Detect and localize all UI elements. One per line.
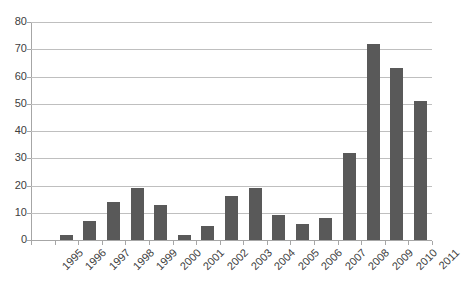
y-tick-mark-40 xyxy=(27,131,31,132)
bar-2006 xyxy=(296,224,309,240)
x-tick-label-2008: 2008 xyxy=(367,247,392,272)
x-tick-label-1999: 1999 xyxy=(154,247,179,272)
x-tick-label-2004: 2004 xyxy=(272,247,297,272)
x-tick-label-2011: 2011 xyxy=(437,247,462,272)
bar-2003 xyxy=(225,196,238,240)
bar-2007 xyxy=(319,218,332,240)
gridline-80 xyxy=(31,22,432,23)
y-tick-mark-80 xyxy=(27,22,31,23)
y-tick-label-60: 60 xyxy=(3,71,27,82)
x-tick-mark-end xyxy=(432,241,433,245)
y-tick-mark-60 xyxy=(27,77,31,78)
y-tick-label-80: 80 xyxy=(3,16,27,27)
x-tick-label-2006: 2006 xyxy=(319,247,344,272)
x-tick-label-2003: 2003 xyxy=(249,247,274,272)
y-axis-tick-labels: 01020304050607080 xyxy=(0,0,27,287)
bar-1999 xyxy=(131,188,144,240)
y-tick-mark-0 xyxy=(27,240,31,241)
x-tick-label-1997: 1997 xyxy=(107,247,132,272)
bar-2011 xyxy=(414,101,427,240)
x-tick-mark-3 xyxy=(102,241,103,245)
x-tick-mark-10 xyxy=(267,241,268,245)
x-tick-label-1995: 1995 xyxy=(60,247,85,272)
x-tick-label-1996: 1996 xyxy=(84,247,109,272)
bar-2005 xyxy=(272,215,285,240)
y-tick-label-50: 50 xyxy=(3,98,27,109)
y-tick-mark-50 xyxy=(27,104,31,105)
bar-2004 xyxy=(249,188,262,240)
x-tick-mark-7 xyxy=(196,241,197,245)
x-tick-mark-9 xyxy=(243,241,244,245)
x-tick-mark-6 xyxy=(173,241,174,245)
plot-area xyxy=(31,22,432,240)
x-tick-label-2001: 2001 xyxy=(201,247,226,272)
bar-2010 xyxy=(390,68,403,240)
bar-1996 xyxy=(60,235,73,240)
bar-2002 xyxy=(201,226,214,240)
x-tick-label-2007: 2007 xyxy=(343,247,368,272)
y-tick-mark-70 xyxy=(27,49,31,50)
bar-2008 xyxy=(343,153,356,240)
x-tick-mark-16 xyxy=(408,241,409,245)
y-tick-label-0: 0 xyxy=(3,234,27,245)
x-tick-mark-13 xyxy=(338,241,339,245)
y-tick-mark-10 xyxy=(27,213,31,214)
x-tick-label-2010: 2010 xyxy=(414,247,439,272)
y-tick-mark-20 xyxy=(27,186,31,187)
bar-2001 xyxy=(178,235,191,240)
y-tick-label-20: 20 xyxy=(3,180,27,191)
x-tick-mark-11 xyxy=(290,241,291,245)
x-tick-mark-14 xyxy=(361,241,362,245)
bar-2009 xyxy=(367,44,380,240)
bar-2000 xyxy=(154,205,167,240)
bar-1997 xyxy=(83,221,96,240)
x-tick-label-2005: 2005 xyxy=(296,247,321,272)
bar-1998 xyxy=(107,202,120,240)
y-tick-label-40: 40 xyxy=(3,125,27,136)
y-tick-label-10: 10 xyxy=(3,207,27,218)
x-tick-mark-8 xyxy=(220,241,221,245)
x-tick-label-2002: 2002 xyxy=(225,247,250,272)
x-tick-mark-5 xyxy=(149,241,150,245)
y-tick-label-70: 70 xyxy=(3,43,27,54)
x-tick-label-2000: 2000 xyxy=(178,247,203,272)
x-tick-mark-12 xyxy=(314,241,315,245)
gridline-0 xyxy=(31,240,432,241)
x-tick-mark-1 xyxy=(55,241,56,245)
x-tick-mark-0 xyxy=(31,241,32,245)
y-tick-mark-30 xyxy=(27,158,31,159)
x-tick-label-1998: 1998 xyxy=(131,247,156,272)
x-tick-label-2009: 2009 xyxy=(390,247,415,272)
x-tick-mark-4 xyxy=(125,241,126,245)
y-tick-label-30: 30 xyxy=(3,152,27,163)
x-tick-mark-15 xyxy=(385,241,386,245)
x-tick-mark-2 xyxy=(78,241,79,245)
